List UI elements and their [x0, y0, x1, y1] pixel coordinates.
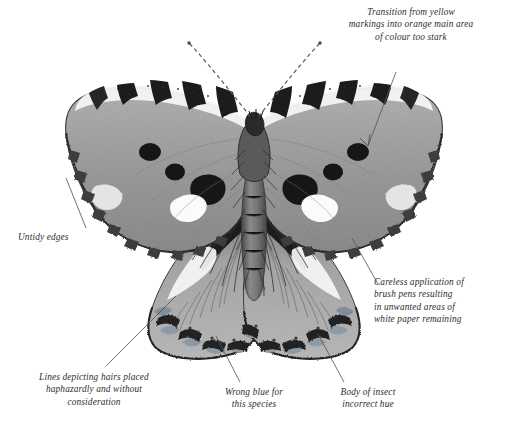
butterfly-critique-figure [0, 0, 508, 432]
butterfly-drawing [66, 41, 443, 359]
forewing-left [66, 80, 256, 261]
illustration-canvas: Transition from yellow markings into ora… [0, 0, 508, 432]
forewing-right [252, 80, 442, 261]
